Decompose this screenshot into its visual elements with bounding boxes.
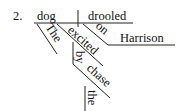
sentence-diagram: 2. dog drooled The excited on Harrison b…	[0, 0, 184, 111]
modifier-the-2: the	[85, 90, 99, 106]
preposition-by: by	[73, 51, 87, 64]
object-harrison: Harrison	[120, 31, 164, 45]
object-chase: chase	[84, 61, 114, 90]
modifier-the: The	[43, 21, 66, 45]
diagram-canvas: 2. dog drooled The excited on Harrison b…	[0, 0, 184, 111]
item-number: 2.	[13, 9, 22, 23]
predicate-word: drooled	[88, 9, 127, 23]
